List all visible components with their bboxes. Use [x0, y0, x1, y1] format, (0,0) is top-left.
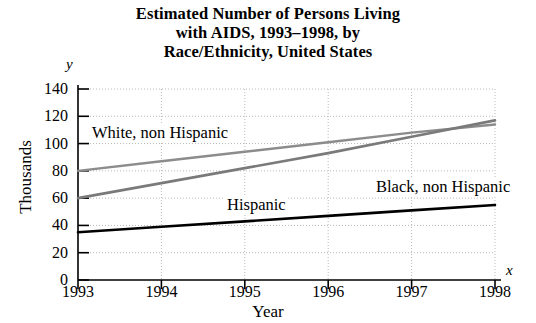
series-label-hispanic: Hispanic — [225, 196, 288, 213]
chart-figure: Estimated Number of Persons Living with … — [0, 0, 536, 323]
plot-area — [0, 0, 536, 323]
series-label-white-non-hispanic: White, non Hispanic — [90, 124, 230, 141]
series-label-black-non-hispanic: Black, non Hispanic — [374, 178, 512, 195]
